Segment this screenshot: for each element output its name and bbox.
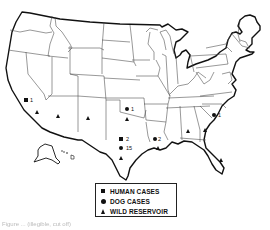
human-case-marker-ca xyxy=(24,98,28,102)
legend-item-wild-reservoir: WILD RESERVOIR xyxy=(101,206,176,216)
ca-human-label: 1 xyxy=(30,97,33,103)
dog-case-marker-ok xyxy=(125,107,129,111)
triangle-icon xyxy=(101,209,105,214)
map-legend: HUMAN CASES DOG CASES WILD RESERVOIR xyxy=(95,183,177,217)
human-case-marker-tx xyxy=(119,137,123,141)
legend-item-dog-cases: DOG CASES xyxy=(101,196,176,206)
dog-case-marker-tx xyxy=(119,146,123,150)
circle-icon xyxy=(101,199,106,204)
tx-human-label: 2 xyxy=(126,136,129,142)
legend-item-human-cases: HUMAN CASES xyxy=(101,186,176,196)
dog-case-marker-la xyxy=(153,137,157,141)
square-icon xyxy=(101,189,105,193)
legend-label: DOG CASES xyxy=(110,198,150,205)
figure-caption: Figure ... (illegible, cut off) xyxy=(2,221,268,230)
ok-dog-label: 1 xyxy=(131,106,134,112)
la-dog-label: 2 xyxy=(158,136,161,142)
tx-dog-label: 15 xyxy=(126,145,132,151)
sc-dog-label: 1 xyxy=(218,112,221,118)
wild-reservoir-marker-fl xyxy=(219,158,223,162)
alaska xyxy=(34,144,60,164)
legend-label: HUMAN CASES xyxy=(110,188,160,195)
legend-label: WILD RESERVOIR xyxy=(110,208,168,215)
hawaii xyxy=(61,150,74,159)
dog-case-marker-sc xyxy=(212,113,216,117)
